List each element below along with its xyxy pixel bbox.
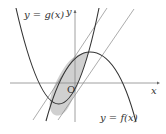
label-origin: O <box>67 84 75 95</box>
label-g: y = g(x) <box>23 9 64 20</box>
x-axis-arrow-icon <box>157 82 160 85</box>
label-x-axis: x <box>151 85 157 96</box>
label-y-axis: y <box>65 6 72 17</box>
label-f: y = f(x) <box>99 112 138 123</box>
y-axis-arrow-icon <box>74 10 77 13</box>
function-graph: y = g(x) y x O y = f(x) <box>0 0 166 134</box>
